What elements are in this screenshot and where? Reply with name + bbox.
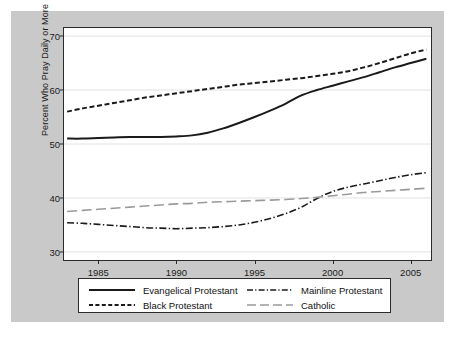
y-tick-mark xyxy=(60,197,64,198)
y-axis-title: Percent Who Pray Daily or More xyxy=(40,0,54,145)
legend-key-evangelical-protestant xyxy=(88,284,136,296)
y-tick-mark xyxy=(60,36,64,37)
legend-label-evangelical-protestant: Evangelical Protestant xyxy=(143,285,238,296)
plot-area: 304050607019851990199520002005 xyxy=(63,27,432,261)
x-tick-label: 2000 xyxy=(310,267,356,278)
series-line-black-protestant xyxy=(67,50,426,112)
y-tick-label: 30 xyxy=(20,246,60,257)
x-tick-label: 2005 xyxy=(388,267,434,278)
legend: Evangelical Protestant Black Protestant … xyxy=(78,278,391,313)
legend-label-black-protestant: Black Protestant xyxy=(143,300,212,311)
legend-label-mainline-protestant: Mainline Protestant xyxy=(301,285,382,296)
legend-item-catholic: Catholic xyxy=(246,298,335,312)
x-tick-mark xyxy=(255,260,256,264)
legend-key-mainline-protestant xyxy=(246,284,294,296)
legend-key-black-protestant xyxy=(88,299,136,311)
series-line-catholic xyxy=(67,188,426,211)
y-tick-mark xyxy=(60,144,64,145)
x-tick-mark xyxy=(333,260,334,264)
legend-item-mainline-protestant: Mainline Protestant xyxy=(246,283,382,297)
legend-label-catholic: Catholic xyxy=(301,300,335,311)
y-tick-mark xyxy=(60,251,64,252)
y-tick-label: 40 xyxy=(20,192,60,203)
series-line-evangelical-protestant xyxy=(67,59,426,139)
legend-item-black-protestant: Black Protestant xyxy=(88,298,212,312)
y-tick-mark xyxy=(60,90,64,91)
x-tick-mark xyxy=(98,260,99,264)
x-tick-label: 1985 xyxy=(75,267,121,278)
legend-key-catholic xyxy=(246,299,294,311)
x-tick-label: 1995 xyxy=(232,267,278,278)
x-tick-label: 1990 xyxy=(153,267,199,278)
x-tick-mark xyxy=(411,260,412,264)
x-tick-mark xyxy=(176,260,177,264)
figure-background: 304050607019851990199520002005 Percent W… xyxy=(11,11,444,322)
legend-item-evangelical-protestant: Evangelical Protestant xyxy=(88,283,238,297)
plot-svg xyxy=(64,28,431,260)
